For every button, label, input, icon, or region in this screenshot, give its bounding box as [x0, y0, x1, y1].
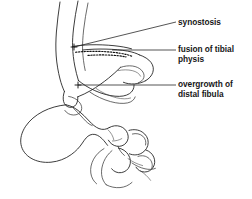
callout-label-overgrowth-of-distal-fibula: overgrowth of distal fibula [178, 79, 233, 99]
callout-label-fusion-of-tibial-physis: fusion of tibial physis [178, 44, 234, 64]
callout-label-synostosis: synostosis [178, 17, 221, 27]
callout-label-layer: synostosis fusion of tibial physis overg… [0, 0, 252, 199]
anatomical-illustration: synostosis fusion of tibial physis overg… [0, 0, 252, 199]
